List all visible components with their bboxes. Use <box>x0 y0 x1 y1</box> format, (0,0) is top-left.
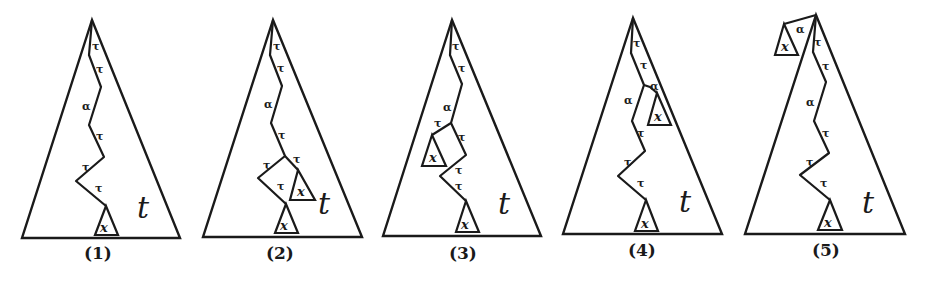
path-label: τ <box>95 182 102 195</box>
tree-label-t: t <box>137 190 150 225</box>
subtree-label: x <box>99 220 108 235</box>
subtree-label: x <box>428 150 437 165</box>
path-label: τ <box>273 40 280 53</box>
path-label: τ <box>452 40 459 53</box>
panel-3: x x τ τ α τ τ τ τ t (3) <box>383 20 541 263</box>
subtree-label: x <box>296 184 305 199</box>
tree-outline <box>383 20 541 236</box>
path-label: α <box>443 101 452 114</box>
path-label: τ <box>263 159 270 172</box>
panel-caption: (4) <box>628 240 656 260</box>
path-label: τ <box>820 177 827 190</box>
tree-label-t: t <box>862 185 875 220</box>
path-label: τ <box>637 127 644 140</box>
path-label: α <box>82 100 91 113</box>
path-label: τ <box>458 62 465 75</box>
path-label: τ <box>822 60 829 73</box>
path-label: τ <box>82 161 89 174</box>
tree-label-t: t <box>498 186 511 221</box>
tree-outline <box>563 18 722 234</box>
path-label: τ <box>455 164 462 177</box>
panel-caption: (5) <box>812 240 840 260</box>
tree-path-diagrams: x τ τ α τ τ τ t (1) x x τ τ α τ τ τ τ t … <box>0 0 933 284</box>
path-label: τ <box>96 63 103 76</box>
path-label: α <box>264 98 273 111</box>
panel-5: x x α τ τ α τ τ τ t (5) <box>745 15 905 260</box>
path-label: τ <box>277 180 284 193</box>
path-label: τ <box>434 117 441 130</box>
path-label: α <box>796 23 805 36</box>
tree-path <box>258 20 286 204</box>
tree-outline <box>745 15 905 234</box>
subtree-label: x <box>780 39 789 54</box>
path-label: α <box>806 96 815 109</box>
panel-1: x τ τ α τ τ τ t (1) <box>22 20 180 263</box>
subtree-label: x <box>460 217 469 232</box>
tree-label-t: t <box>318 186 331 221</box>
path-label: τ <box>814 36 821 49</box>
path-label: τ <box>640 59 647 72</box>
path-label: τ <box>455 180 462 193</box>
subtree-label: x <box>279 218 288 233</box>
panel-2: x x τ τ α τ τ τ τ t (2) <box>203 20 362 263</box>
path-label: τ <box>822 127 829 140</box>
path-label: τ <box>277 62 284 75</box>
path-label: τ <box>293 153 300 166</box>
path-label: τ <box>624 156 631 169</box>
panel-4: x x τ τ α α τ τ τ t (4) <box>563 18 722 260</box>
path-label: α <box>624 94 633 107</box>
subtree-label: x <box>823 215 832 230</box>
path-label: τ <box>806 156 813 169</box>
tree-path <box>618 18 646 200</box>
path-label: τ <box>92 40 99 53</box>
path-label: τ <box>278 129 285 142</box>
panel-caption: (2) <box>266 243 294 263</box>
path-label: α <box>650 80 659 93</box>
panel-caption: (3) <box>449 243 477 263</box>
path-label: τ <box>96 130 103 143</box>
subtree-label: x <box>653 109 662 124</box>
path-label: τ <box>458 131 465 144</box>
tree-label-t: t <box>679 184 692 219</box>
subtree-label: x <box>640 216 649 231</box>
panel-caption: (1) <box>84 243 112 263</box>
tree-outline <box>22 20 180 238</box>
path-label: τ <box>637 177 644 190</box>
tree-path <box>76 20 106 206</box>
path-label: τ <box>633 37 640 50</box>
